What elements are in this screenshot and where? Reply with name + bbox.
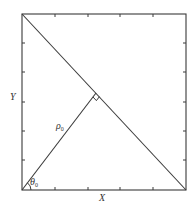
hough-diagram: [0, 0, 193, 214]
rho-label: ρ0: [56, 121, 64, 132]
y-axis-label-text: Y: [10, 91, 16, 102]
diagonal-line: [22, 14, 186, 190]
y-axis-label: Y: [10, 92, 16, 102]
x-axis-label: X: [99, 193, 105, 203]
rho-subscript: 0: [61, 126, 64, 132]
theta-label: θ0: [30, 177, 38, 188]
theta-subscript: 0: [35, 182, 38, 188]
x-axis-label-text: X: [99, 192, 105, 203]
right-angle-marker: [93, 97, 99, 101]
